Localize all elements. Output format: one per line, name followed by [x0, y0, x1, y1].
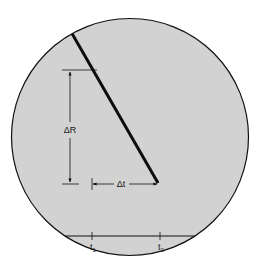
delta-r-label: ΔR — [64, 125, 77, 135]
delta-t-label: Δt — [117, 179, 126, 189]
diagram-canvas: ΔR Δt t1 t2 — [0, 0, 259, 272]
